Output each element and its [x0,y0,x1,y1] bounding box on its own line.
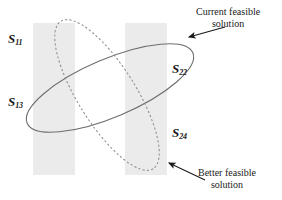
callout-current-line2: solution [196,18,260,30]
callout-better-line1: Better feasible [198,167,256,178]
callout-better-line2: solution [198,179,256,191]
band-left [33,23,75,175]
label-s13: S13 [8,95,23,108]
callout-arrows [169,27,225,180]
callout-better-feasible-solution: Better feasible solution [198,167,256,190]
label-s24: S24 [172,126,187,139]
label-s22-subscript: 22 [179,68,187,77]
callout-current-line1: Current feasible [196,6,260,17]
label-s22: S22 [172,62,187,75]
label-s11: S11 [8,32,22,45]
label-s13-subscript: 13 [15,101,23,110]
label-s11-subscript: 11 [15,38,22,47]
figure-canvas: S11 S22 S13 S24 Current feasible solutio… [0,0,282,200]
callout-current-feasible-solution: Current feasible solution [196,6,260,29]
label-s24-subscript: 24 [179,132,187,141]
